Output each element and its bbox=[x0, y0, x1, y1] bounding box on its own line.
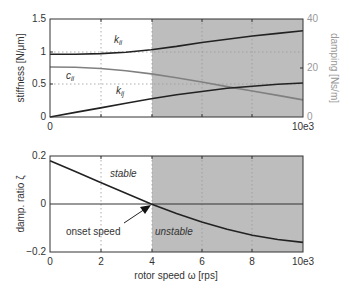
stable-label: stable bbox=[110, 168, 137, 179]
bottom-xtick-0: 0 bbox=[47, 256, 53, 267]
cii-label: cii bbox=[66, 70, 75, 82]
kij-label: kij bbox=[116, 85, 125, 98]
bottom-xtick-10e3: 10e3 bbox=[292, 256, 315, 267]
bottom-xtick-4: 4 bbox=[149, 256, 155, 267]
figure: 1.5 1 0.5 0 40 20 0 0 10e3 stiffness [N/… bbox=[0, 0, 350, 297]
onset-arrow-icon bbox=[124, 205, 151, 223]
top-ytick-0: 0 bbox=[40, 111, 46, 122]
xlabel: rotor speed ω [rps] bbox=[134, 270, 218, 281]
bottom-ytick-neg0.2: −0.2 bbox=[26, 246, 46, 257]
bottom-xtick-8: 8 bbox=[249, 256, 255, 267]
top-xtick-0: 0 bbox=[47, 121, 53, 132]
top-ytick-1: 1 bbox=[40, 46, 46, 57]
top-ytick-1.5: 1.5 bbox=[32, 13, 46, 24]
bottom-ylabel: damp. ratio ζ bbox=[15, 175, 27, 233]
top-ytick-right-20: 20 bbox=[307, 62, 319, 73]
unstable-label: unstable bbox=[155, 226, 193, 237]
onset-speed-label: onset speed bbox=[66, 226, 121, 237]
top-ytick-right-40: 40 bbox=[307, 13, 319, 24]
kii-label: kii bbox=[114, 34, 123, 46]
bottom-xtick-2: 2 bbox=[98, 256, 104, 267]
top-ylabel-right: damping [Ns/m] bbox=[329, 33, 340, 103]
bottom-panel: 0.2 0 −0.2 0 2 4 6 8 10e3 damp. ratio ζ … bbox=[15, 150, 315, 281]
bottom-ytick-0.2: 0.2 bbox=[32, 150, 46, 161]
top-panel: 1.5 1 0.5 0 40 20 0 0 10e3 stiffness [N/… bbox=[15, 13, 340, 132]
top-xtick-10e3: 10e3 bbox=[292, 121, 315, 132]
top-ylabel: stiffness [N/μm] bbox=[15, 33, 26, 102]
bottom-xtick-6: 6 bbox=[199, 256, 205, 267]
bottom-ytick-0: 0 bbox=[40, 198, 46, 209]
top-ytick-0.5: 0.5 bbox=[32, 78, 46, 89]
